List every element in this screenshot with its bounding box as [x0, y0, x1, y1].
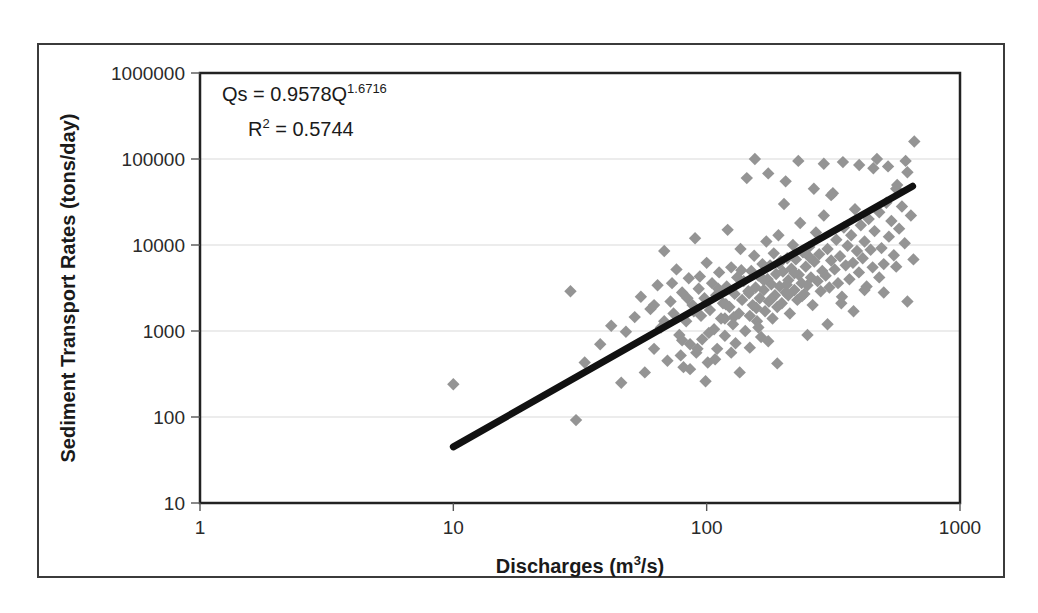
y-tick-label: 1000 — [143, 321, 185, 342]
r-squared-annotation: R2 = 0.5744 — [248, 116, 354, 140]
data-point — [733, 366, 745, 378]
data-point — [700, 257, 712, 269]
x-tick-label: 100 — [691, 517, 723, 538]
data-point — [771, 357, 783, 369]
data-point — [749, 153, 761, 165]
data-point — [901, 295, 913, 307]
data-point — [741, 172, 753, 184]
data-point — [905, 209, 917, 221]
data-point — [806, 299, 818, 311]
data-point — [878, 286, 890, 298]
data-point — [635, 291, 647, 303]
trend-line — [453, 186, 912, 447]
equation-base: Qs = 0.9578Q — [222, 83, 347, 105]
y-tick-label: 100 — [153, 407, 185, 428]
data-points — [447, 135, 920, 426]
data-point — [882, 160, 894, 172]
data-point — [648, 343, 660, 355]
data-point — [639, 366, 651, 378]
data-point — [447, 378, 459, 390]
data-point — [843, 273, 855, 285]
data-point — [620, 326, 632, 338]
data-point — [908, 135, 920, 147]
x-axis-title-tail: /s) — [641, 555, 664, 577]
x-axis-title-sup: 3 — [634, 553, 641, 568]
data-point — [689, 232, 701, 244]
data-point — [658, 245, 670, 257]
data-point — [661, 355, 673, 367]
data-point — [675, 349, 687, 361]
x-axis-title-base: Discharges (m — [496, 555, 634, 577]
data-point — [868, 225, 880, 237]
x-axis-ticks: 1101001000 — [195, 503, 981, 538]
data-point — [890, 260, 902, 272]
x-axis-title: Discharges (m3/s) — [496, 553, 664, 577]
data-point — [853, 266, 865, 278]
data-point — [666, 277, 678, 289]
data-point — [907, 253, 919, 265]
data-point — [847, 305, 859, 317]
data-point — [808, 183, 820, 195]
y-tick-label: 10000 — [132, 235, 185, 256]
data-point — [692, 283, 704, 295]
data-point — [784, 307, 796, 319]
r-squared-sup: 2 — [262, 116, 269, 131]
data-point — [888, 249, 900, 261]
data-point — [605, 320, 617, 332]
x-tick-label: 1 — [195, 517, 206, 538]
data-point — [564, 285, 576, 297]
data-point — [778, 198, 790, 210]
data-point — [779, 175, 791, 187]
data-point — [683, 272, 695, 284]
equation-annotation: Qs = 0.9578Q1.6716 — [222, 81, 387, 105]
equation-exponent: 1.6716 — [347, 81, 387, 96]
data-point — [883, 230, 895, 242]
data-point — [744, 341, 756, 353]
x-tick-label: 1000 — [939, 517, 981, 538]
data-point — [792, 155, 804, 167]
data-point — [794, 217, 806, 229]
data-point — [818, 209, 830, 221]
data-point — [901, 166, 913, 178]
y-tick-label: 1000000 — [111, 63, 185, 84]
data-point — [762, 167, 774, 179]
data-point — [739, 325, 751, 337]
data-point — [694, 270, 706, 282]
x-tick-label: 10 — [443, 517, 464, 538]
data-point — [570, 414, 582, 426]
data-point — [711, 343, 723, 355]
y-tick-label: 10 — [164, 493, 185, 514]
data-point — [866, 261, 878, 273]
data-point — [893, 222, 905, 234]
data-point — [699, 375, 711, 387]
data-point — [594, 338, 606, 350]
data-point — [664, 295, 676, 307]
data-point — [878, 258, 890, 270]
data-point — [748, 250, 760, 262]
data-point — [899, 155, 911, 167]
r-squared-base: R — [248, 118, 262, 140]
data-point — [713, 266, 725, 278]
y-axis-ticks: 101001000100001000001000000 — [111, 63, 200, 514]
data-point — [885, 215, 897, 227]
scatter-chart: 101001000100001000001000000 1101001000 Q… — [0, 0, 1038, 613]
data-point — [845, 229, 857, 241]
chart-svg: 101001000100001000001000000 1101001000 Q… — [0, 0, 1038, 613]
y-axis-title: Sediment Transport Rates (tons/day) — [57, 114, 79, 463]
y-tick-label: 100000 — [122, 149, 185, 170]
data-point — [670, 263, 682, 275]
data-point — [651, 279, 663, 291]
data-point — [760, 235, 772, 247]
data-point — [896, 200, 908, 212]
data-point — [615, 377, 627, 389]
data-point — [875, 242, 887, 254]
r-squared-value: = 0.5744 — [270, 118, 354, 140]
data-point — [853, 159, 865, 171]
data-point — [725, 261, 737, 273]
data-point — [721, 224, 733, 236]
data-point — [821, 318, 833, 330]
data-point — [899, 237, 911, 249]
data-point — [873, 271, 885, 283]
data-point — [772, 229, 784, 241]
data-point — [629, 311, 641, 323]
